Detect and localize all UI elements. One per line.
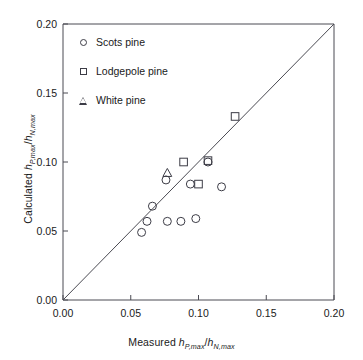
plot-canvas	[0, 0, 363, 360]
x-tick-label: 0.15	[256, 307, 276, 319]
x-axis-label-sub1: P,max	[185, 343, 205, 351]
y-axis-label-prefix: Calculated	[22, 170, 34, 224]
y-axis-label-wrapper: Calculated hP,max/hN,max	[18, 31, 32, 307]
y-axis-label-sub1: P,max	[29, 144, 37, 164]
y-tick-label: 0.15	[37, 87, 57, 99]
legend-item-label: White pine	[96, 94, 146, 106]
y-tick-label: 0.05	[37, 225, 57, 237]
y-axis-label-sub2: N,max	[29, 114, 37, 135]
x-axis-label: Measured hP,max/hN,max	[0, 336, 363, 351]
triangle-marker	[78, 95, 89, 106]
x-tick-label: 0.05	[121, 307, 141, 319]
legend-item-label: Scots pine	[96, 36, 145, 48]
y-axis-label-slash: /	[22, 141, 34, 144]
square-marker	[78, 66, 89, 77]
legend-item-white-pine[interactable]: White pine	[78, 94, 146, 106]
scatter-chart-figure: 0.000.050.100.150.20 0.000.050.100.150.2…	[0, 0, 363, 360]
y-axis-label: Calculated hP,max/hN,max	[22, 114, 37, 223]
x-tick-label: 0.20	[324, 307, 344, 319]
y-tick-label: 0.20	[37, 18, 57, 30]
legend-item-lodgepole-pine[interactable]: Lodgepole pine	[78, 65, 168, 77]
x-tick-label: 0.00	[53, 307, 73, 319]
legend-item-scots-pine[interactable]: Scots pine	[78, 36, 145, 48]
x-tick-label: 0.10	[188, 307, 208, 319]
legend-item-label: Lodgepole pine	[96, 65, 168, 77]
circle-marker	[78, 37, 89, 48]
y-axis-label-h2: h	[22, 135, 34, 141]
y-tick-label: 0.10	[37, 156, 57, 168]
y-tick-label: 0.00	[37, 294, 57, 306]
x-axis-label-prefix: Measured	[128, 336, 179, 348]
y-axis-label-h1: h	[22, 164, 34, 170]
x-axis-label-sub2: N,max	[214, 343, 235, 351]
